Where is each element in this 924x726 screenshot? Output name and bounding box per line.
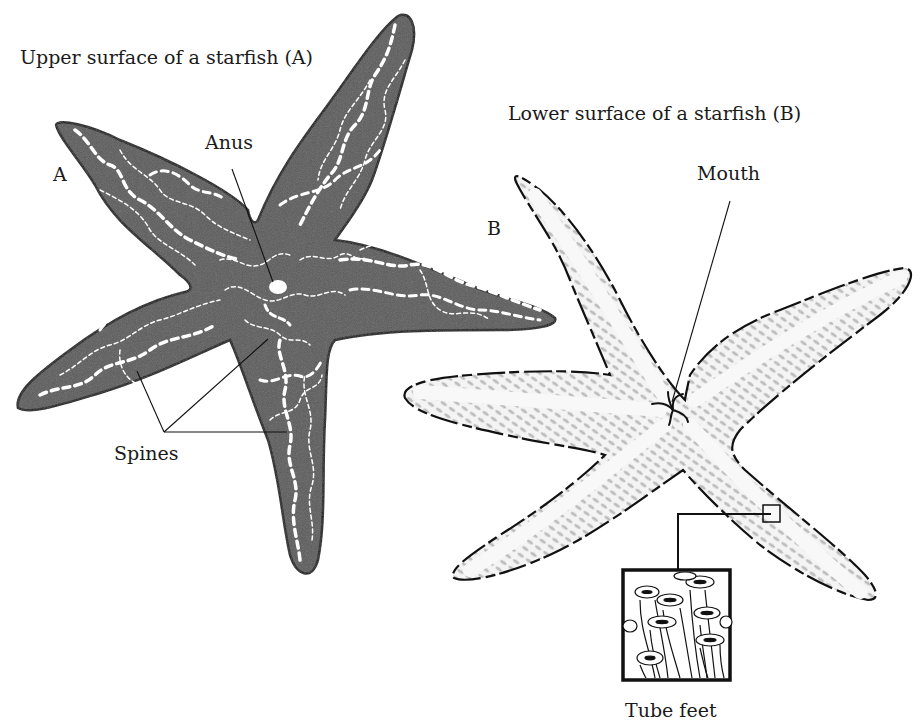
anus-opening <box>269 280 287 294</box>
upper-starfish <box>18 15 556 574</box>
marker-a: A <box>53 165 67 184</box>
ambulacral-grooves <box>420 195 900 592</box>
label-spines: Spines <box>114 444 179 463</box>
spines-leader-1 <box>137 371 164 432</box>
label-tube-feet: Tube feet <box>625 701 717 720</box>
lower-starfish <box>404 176 911 600</box>
marker-b: B <box>487 219 501 238</box>
title-upper-surface: Upper surface of a starfish (A) <box>20 48 313 67</box>
upper-starfish-body <box>18 15 556 574</box>
label-anus: Anus <box>205 133 253 152</box>
tube-feet-inset <box>623 514 771 680</box>
title-lower-surface: Lower surface of a starfish (B) <box>508 104 801 123</box>
label-mouth: Mouth <box>697 164 760 183</box>
